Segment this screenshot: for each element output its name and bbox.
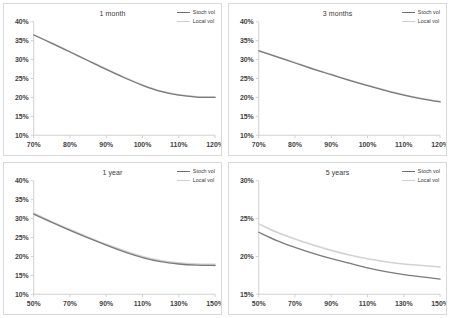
svg-text:25%: 25% bbox=[240, 215, 254, 222]
svg-text:40%: 40% bbox=[15, 177, 29, 184]
legend-label-stoch: Stoch vol bbox=[193, 9, 215, 15]
legend-1: Stoch vol Local vol bbox=[177, 9, 215, 24]
svg-text:30%: 30% bbox=[240, 177, 254, 184]
svg-text:15%: 15% bbox=[15, 272, 29, 279]
legend-line-local-icon bbox=[177, 180, 190, 181]
plot-area-1: 10%15%20%25%30%35%40%70%80%90%100%110%12… bbox=[4, 4, 221, 155]
svg-text:110%: 110% bbox=[359, 300, 376, 307]
legend-line-stoch-icon bbox=[402, 12, 415, 13]
svg-text:10%: 10% bbox=[15, 132, 29, 139]
legend-item-stoch-2: Stoch vol bbox=[402, 9, 440, 15]
legend-item-stoch-3: Stoch vol bbox=[177, 168, 215, 174]
svg-text:70%: 70% bbox=[288, 300, 302, 307]
panel-1-month: 10%15%20%25%30%35%40%70%80%90%100%110%12… bbox=[3, 3, 222, 156]
svg-text:130%: 130% bbox=[395, 300, 413, 307]
svg-text:70%: 70% bbox=[27, 141, 41, 148]
legend-label-stoch: Stoch vol bbox=[418, 9, 440, 15]
svg-text:80%: 80% bbox=[63, 141, 77, 148]
svg-text:20%: 20% bbox=[15, 94, 29, 101]
svg-text:30%: 30% bbox=[15, 56, 29, 63]
svg-text:20%: 20% bbox=[15, 253, 29, 260]
legend-label-stoch: Stoch vol bbox=[418, 168, 440, 174]
svg-text:150%: 150% bbox=[206, 300, 221, 307]
svg-text:70%: 70% bbox=[63, 300, 77, 307]
svg-text:10%: 10% bbox=[15, 291, 29, 298]
svg-text:120%: 120% bbox=[431, 141, 446, 148]
legend-line-local-icon bbox=[402, 180, 415, 181]
svg-text:35%: 35% bbox=[15, 196, 29, 203]
legend-line-stoch-icon bbox=[402, 171, 415, 172]
svg-text:50%: 50% bbox=[27, 300, 41, 307]
legend-item-local-1: Local vol bbox=[177, 18, 215, 24]
legend-label-local: Local vol bbox=[193, 18, 214, 24]
svg-text:40%: 40% bbox=[15, 18, 29, 25]
svg-text:100%: 100% bbox=[359, 141, 377, 148]
legend-item-stoch-1: Stoch vol bbox=[177, 9, 215, 15]
panel-1-year: 10%15%20%25%30%35%40%50%70%90%110%130%15… bbox=[3, 162, 222, 315]
panel-3-months: 10%15%20%25%30%35%40%70%80%90%100%110%12… bbox=[228, 3, 447, 156]
svg-text:90%: 90% bbox=[324, 141, 338, 148]
chart-svg-2: 10%15%20%25%30%35%40%70%80%90%100%110%12… bbox=[229, 4, 446, 155]
chart-grid: 10%15%20%25%30%35%40%70%80%90%100%110%12… bbox=[0, 0, 450, 318]
legend-line-stoch-icon bbox=[177, 12, 190, 13]
svg-text:150%: 150% bbox=[431, 300, 446, 307]
legend-item-stoch-4: Stoch vol bbox=[402, 168, 440, 174]
legend-label-local: Local vol bbox=[418, 18, 439, 24]
legend-item-local-2: Local vol bbox=[402, 18, 440, 24]
svg-text:110%: 110% bbox=[134, 300, 151, 307]
chart-svg-1: 10%15%20%25%30%35%40%70%80%90%100%110%12… bbox=[4, 4, 221, 155]
plot-area-3: 10%15%20%25%30%35%40%50%70%90%110%130%15… bbox=[4, 163, 221, 314]
chart-svg-4: 15%20%25%30%50%70%90%110%130%150% bbox=[229, 163, 446, 314]
svg-text:70%: 70% bbox=[252, 141, 266, 148]
svg-text:35%: 35% bbox=[15, 37, 29, 44]
panel-5-years: 15%20%25%30%50%70%90%110%130%150% 5 year… bbox=[228, 162, 447, 315]
svg-text:15%: 15% bbox=[15, 113, 29, 120]
svg-text:120%: 120% bbox=[206, 141, 221, 148]
svg-text:25%: 25% bbox=[15, 75, 29, 82]
svg-text:130%: 130% bbox=[170, 300, 188, 307]
legend-line-local-icon bbox=[177, 21, 190, 22]
svg-text:50%: 50% bbox=[252, 300, 266, 307]
svg-text:40%: 40% bbox=[240, 18, 254, 25]
svg-text:25%: 25% bbox=[240, 75, 254, 82]
svg-text:20%: 20% bbox=[240, 253, 254, 260]
legend-label-local: Local vol bbox=[193, 177, 214, 183]
svg-text:90%: 90% bbox=[324, 300, 338, 307]
legend-item-local-3: Local vol bbox=[177, 177, 215, 183]
svg-text:100%: 100% bbox=[134, 141, 152, 148]
svg-text:20%: 20% bbox=[240, 94, 254, 101]
chart-svg-3: 10%15%20%25%30%35%40%50%70%90%110%130%15… bbox=[4, 163, 221, 314]
svg-text:90%: 90% bbox=[99, 300, 113, 307]
svg-text:90%: 90% bbox=[99, 141, 113, 148]
legend-label-local: Local vol bbox=[418, 177, 439, 183]
svg-text:15%: 15% bbox=[240, 291, 254, 298]
svg-text:30%: 30% bbox=[15, 215, 29, 222]
plot-area-2: 10%15%20%25%30%35%40%70%80%90%100%110%12… bbox=[229, 4, 446, 155]
svg-text:10%: 10% bbox=[240, 132, 254, 139]
legend-line-local-icon bbox=[402, 21, 415, 22]
legend-3: Stoch vol Local vol bbox=[177, 168, 215, 183]
legend-2: Stoch vol Local vol bbox=[402, 9, 440, 24]
svg-text:25%: 25% bbox=[15, 234, 29, 241]
svg-text:15%: 15% bbox=[240, 113, 254, 120]
svg-text:35%: 35% bbox=[240, 37, 254, 44]
legend-item-local-4: Local vol bbox=[402, 177, 440, 183]
legend-4: Stoch vol Local vol bbox=[402, 168, 440, 183]
svg-text:110%: 110% bbox=[395, 141, 412, 148]
svg-text:80%: 80% bbox=[288, 141, 302, 148]
legend-label-stoch: Stoch vol bbox=[193, 168, 215, 174]
svg-text:110%: 110% bbox=[170, 141, 187, 148]
legend-line-stoch-icon bbox=[177, 171, 190, 172]
plot-area-4: 15%20%25%30%50%70%90%110%130%150% bbox=[229, 163, 446, 314]
svg-text:30%: 30% bbox=[240, 56, 254, 63]
